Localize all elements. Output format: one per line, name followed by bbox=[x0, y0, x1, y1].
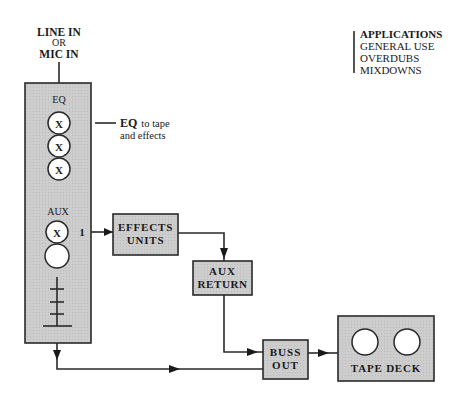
aux-return-to-buss-wire bbox=[224, 295, 263, 352]
tape-deck-box: TAPE DECK bbox=[338, 316, 434, 381]
channel-strip: EQ X X X AUX X 1 bbox=[25, 83, 91, 343]
buss-out-line1: BUSS bbox=[270, 346, 302, 358]
channel-down-arrow-icon bbox=[53, 350, 61, 360]
aux-knob-1: X bbox=[46, 221, 68, 243]
eq-knob-3-label: X bbox=[55, 164, 63, 176]
eq-label: EQ bbox=[52, 94, 66, 105]
eq-annotation-line2: and effects bbox=[120, 130, 166, 141]
eq-annotation-rest: to tape bbox=[141, 118, 170, 129]
eq-annotation-line1: EQto tape bbox=[120, 116, 170, 130]
input-label: LINE IN OR MIC IN bbox=[37, 26, 81, 60]
input-label-line2: OR bbox=[52, 37, 66, 48]
effects-units-box: EFFECTS UNITS bbox=[113, 214, 178, 255]
input-label-line3: MIC IN bbox=[39, 48, 79, 60]
aux-return-line2: RETURN bbox=[197, 278, 247, 290]
applications-item-2: OVERDUBS bbox=[360, 52, 419, 64]
tape-reel-left-icon bbox=[352, 329, 378, 355]
effects-units-line1: EFFECTS bbox=[118, 221, 173, 233]
signal-flow-diagram: LINE IN OR MIC IN EQ X X X AUX X 1 bbox=[0, 0, 469, 403]
eq-annotation-bold: EQ bbox=[120, 116, 137, 130]
eq-knob-2: X bbox=[48, 135, 70, 157]
applications-item-3: MIXDOWNS bbox=[360, 64, 422, 76]
aux-send-arrow-icon bbox=[104, 228, 113, 236]
buss-out-box: BUSS OUT bbox=[263, 340, 308, 379]
applications-item-1: GENERAL USE bbox=[360, 40, 435, 52]
aux-label: AUX bbox=[47, 206, 69, 217]
aux-return-line1: AUX bbox=[209, 265, 236, 277]
aux-return-to-buss-arrow-icon bbox=[247, 348, 258, 356]
eq-knob-3: X bbox=[48, 158, 70, 180]
eq-knob-1-label: X bbox=[55, 118, 63, 130]
channel-to-buss-wire bbox=[57, 343, 263, 369]
eq-knob-2-label: X bbox=[55, 141, 63, 153]
effects-to-aux-return-wire bbox=[178, 233, 224, 261]
eq-annotation: EQto tape and effects bbox=[95, 116, 170, 141]
channel-to-buss-arrow-icon bbox=[169, 365, 180, 373]
applications-legend: APPLICATIONS GENERAL USE OVERDUBS MIXDOW… bbox=[354, 28, 442, 76]
effects-to-aux-return-arrow-icon bbox=[220, 248, 228, 259]
effects-units-line2: UNITS bbox=[127, 234, 165, 246]
tape-reel-right-icon bbox=[394, 329, 420, 355]
applications-title: APPLICATIONS bbox=[360, 28, 442, 40]
buss-out-line2: OUT bbox=[272, 359, 299, 371]
buss-to-tape-arrow-icon bbox=[318, 349, 329, 357]
eq-knob-1: X bbox=[48, 112, 70, 134]
aux-send-number: 1 bbox=[79, 226, 85, 238]
tape-deck-label: TAPE DECK bbox=[351, 362, 421, 374]
aux-knob-2 bbox=[45, 244, 69, 268]
aux-knob-1-label: X bbox=[53, 227, 61, 239]
aux-return-box: AUX RETURN bbox=[193, 261, 252, 295]
